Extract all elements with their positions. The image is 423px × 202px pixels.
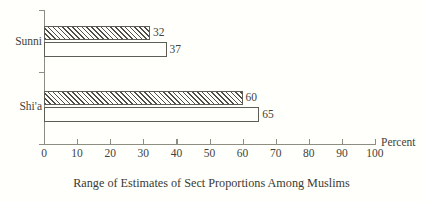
x-axis-tick: [77, 139, 78, 145]
x-axis-tick-label: 30: [128, 147, 158, 160]
bar-shia-low: [44, 91, 243, 105]
bar-sunni-low: [44, 26, 150, 40]
x-axis-tick-label: 0: [29, 147, 59, 160]
x-axis-tick: [375, 139, 376, 145]
x-axis-tick-label: 80: [294, 147, 324, 160]
x-axis-tick-label: 70: [261, 147, 291, 160]
bar-shia-high: [44, 107, 259, 122]
x-axis-tick-label: 20: [95, 147, 125, 160]
x-axis-tick-label: 60: [228, 147, 258, 160]
x-axis-tick: [143, 139, 144, 145]
x-axis-tick-label: 50: [195, 147, 225, 160]
category-label-shia: Shi'a: [19, 100, 42, 113]
y-axis-tick: [39, 72, 45, 73]
x-axis-tick: [276, 139, 277, 145]
chart-caption: Range of Estimates of Sect Proportions A…: [0, 176, 423, 191]
x-axis-tick: [176, 139, 177, 145]
x-axis-unit-label: Percent: [381, 136, 415, 149]
x-axis-tick: [309, 139, 310, 145]
x-axis-tick: [44, 139, 45, 145]
bar-value-shia-high: 65: [262, 108, 274, 121]
x-axis-tick-label: 10: [62, 147, 92, 160]
x-axis-tick: [342, 139, 343, 145]
category-label-sunni: Sunni: [15, 35, 42, 48]
x-axis-tick-label: 40: [161, 147, 191, 160]
bar-sunni-high: [44, 42, 167, 57]
bar-value-shia-low: 60: [246, 91, 258, 104]
x-axis-tick: [210, 139, 211, 145]
x-axis-tick: [243, 139, 244, 145]
bar-value-sunni-high: 37: [170, 43, 182, 56]
y-axis-tick: [39, 10, 45, 11]
x-axis-tick: [110, 139, 111, 145]
bar-value-sunni-low: 32: [153, 26, 165, 39]
bar-chart: 0 10 20 30 40 50 60 70 80 90 100 Sunni 3…: [0, 0, 423, 202]
x-axis-tick-label: 90: [327, 147, 357, 160]
